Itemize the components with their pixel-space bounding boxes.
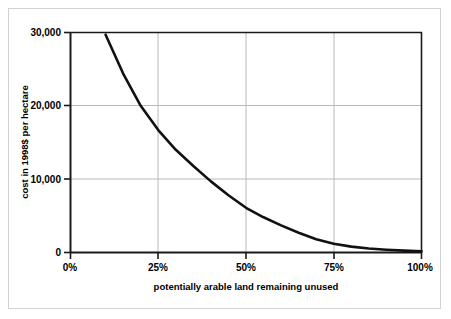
chart-canvas: 0 10,000 20,000 30,000 0% 25% 50% 75% 10… xyxy=(0,0,451,319)
y-tick-label-20000: 20,000 xyxy=(30,100,61,111)
cost-curve xyxy=(106,35,422,252)
x-tick-label-50: 50% xyxy=(236,262,256,273)
x-tick-label-75: 75% xyxy=(324,262,344,273)
y-axis-title: cost in 1998$ per hectare xyxy=(19,85,30,199)
y-tick-label-10000: 10,000 xyxy=(30,174,61,185)
cost-vs-arable-land-line-chart: 0 10,000 20,000 30,000 0% 25% 50% 75% 10… xyxy=(0,0,451,319)
x-axis-title: potentially arable land remaining unused xyxy=(154,281,339,292)
gridlines xyxy=(70,32,422,253)
y-axis-ticks xyxy=(64,33,70,253)
y-tick-label-0: 0 xyxy=(55,247,61,258)
x-tick-label-100: 100% xyxy=(407,262,433,273)
x-tick-label-0: 0% xyxy=(63,262,78,273)
x-axis-ticks xyxy=(71,253,422,259)
x-tick-labels: 0% 25% 50% 75% 100% xyxy=(63,262,433,273)
y-tick-label-30000: 30,000 xyxy=(30,27,61,38)
y-tick-labels: 0 10,000 20,000 30,000 xyxy=(30,27,61,258)
x-tick-label-25: 25% xyxy=(148,262,168,273)
